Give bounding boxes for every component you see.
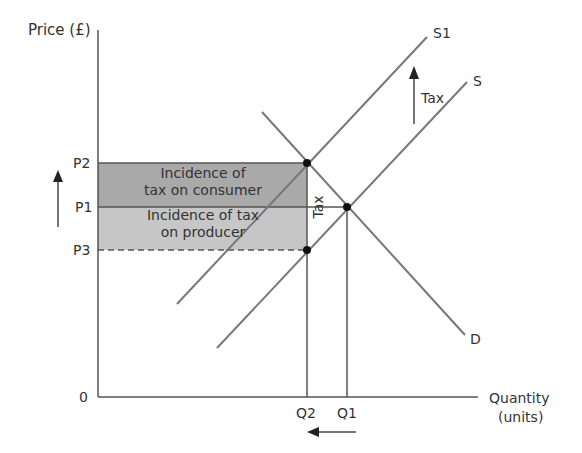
price-label-p2: P2 <box>73 156 90 170</box>
point-p2-q2 <box>303 159 311 167</box>
diagram-canvas <box>0 0 582 453</box>
curve-label-s: S <box>473 74 482 88</box>
curve-label-d: D <box>470 332 481 346</box>
consumer-incidence-line2: tax on consumer <box>128 182 278 199</box>
producer-incidence-line2: on producer <box>128 224 278 241</box>
arrow-left-icon <box>307 427 319 437</box>
x-axis-label-line1: Quantity <box>489 391 550 405</box>
arrow-up-icon <box>53 170 63 182</box>
quantity-label-q1: Q1 <box>337 406 357 420</box>
curve-label-s1: S1 <box>433 26 451 40</box>
arrow-up-icon <box>409 66 419 79</box>
price-label-p1: P1 <box>75 200 92 214</box>
tax-vertical-label: Tax <box>311 195 325 218</box>
producer-incidence-text: Incidence of tax on producer <box>128 207 278 241</box>
consumer-incidence-text: Incidence of tax on consumer <box>128 165 278 199</box>
consumer-incidence-line1: Incidence of <box>128 165 278 182</box>
origin-label: 0 <box>79 390 88 404</box>
y-axis-label: Price (£) <box>28 23 91 38</box>
point-p3-q2 <box>303 246 311 254</box>
quantity-label-q2: Q2 <box>296 406 316 420</box>
price-label-p3: P3 <box>73 243 90 257</box>
tax-shift-label: Tax <box>421 91 444 105</box>
x-axis-label-line2: (units) <box>498 410 543 424</box>
point-p1-q1 <box>343 203 351 211</box>
producer-incidence-line1: Incidence of tax <box>128 207 278 224</box>
